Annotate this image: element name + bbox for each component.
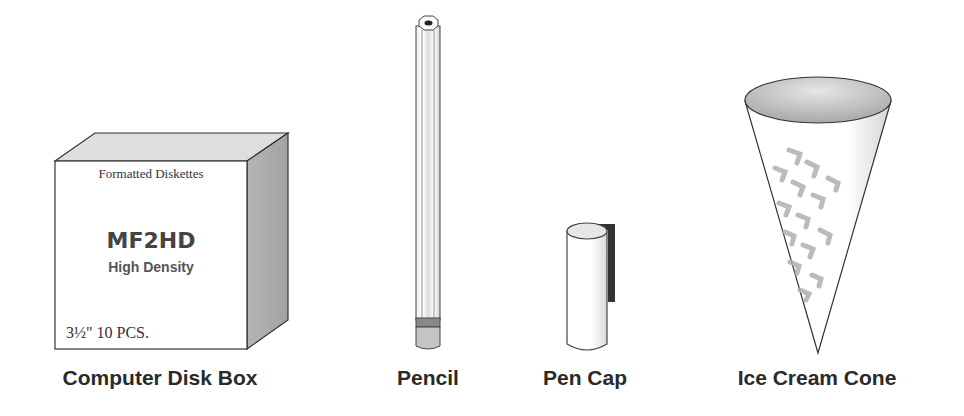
pencil-body — [416, 26, 440, 320]
pencil-ferrule — [416, 318, 440, 327]
disk-box-front-face — [55, 161, 247, 349]
disk-box-side-face — [247, 133, 288, 349]
pencil — [416, 16, 440, 349]
pencil-lead — [425, 21, 433, 26]
ice-cream-cone — [745, 77, 891, 353]
cone-body — [745, 101, 891, 353]
pen-cap-top — [567, 223, 607, 239]
label-pen-cap: Pen Cap — [543, 366, 627, 390]
label-ice-cream-cone: Ice Cream Cone — [738, 366, 897, 390]
disk-box-density-text: High Density — [108, 259, 194, 275]
label-computer-disk-box: Computer Disk Box — [63, 366, 258, 390]
illustration-scene: Formatted Diskettes MF2HD High Density 3… — [0, 0, 964, 416]
disk-box-brand-text: MF2HD — [107, 228, 196, 253]
objects-drawing — [0, 0, 964, 416]
disk-box-header-text: Formatted Diskettes — [98, 166, 203, 182]
pencil-eraser — [416, 327, 440, 349]
cone-top — [745, 77, 891, 123]
pen-cap — [567, 223, 615, 350]
disk-box-count-text: 3½" 10 PCS. — [66, 324, 149, 342]
pen-cap-body — [567, 231, 607, 350]
label-pencil: Pencil — [397, 366, 459, 390]
